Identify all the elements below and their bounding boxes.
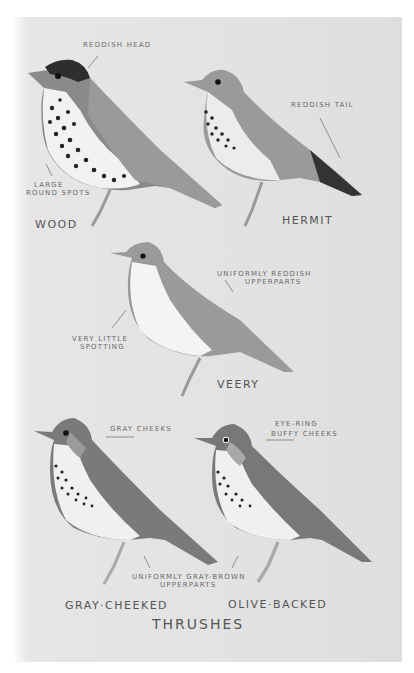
label-round-spots: round spots bbox=[26, 189, 90, 197]
species-name-olive-backed: Olive·Backed bbox=[228, 598, 327, 611]
species-name-hermit: Hermit bbox=[282, 214, 333, 227]
veery-upper-pointer bbox=[225, 280, 233, 292]
olive-backed-figure bbox=[194, 424, 372, 582]
species-name-veery: Veery bbox=[217, 378, 260, 391]
wood-spots-pointer bbox=[46, 164, 52, 176]
label-reddish-tail: Reddish tail bbox=[291, 101, 354, 109]
gray-cheeked-figure bbox=[34, 418, 218, 584]
shared-pointer-right bbox=[232, 556, 238, 568]
species-name-wood: Wood bbox=[35, 218, 78, 231]
label-upperparts-veery: upperparts bbox=[245, 278, 302, 286]
wood-head-pointer bbox=[88, 56, 98, 68]
shared-pointer-left bbox=[144, 556, 150, 568]
label-uniformly-reddish: Uniformly reddish bbox=[217, 270, 312, 278]
veery-figure bbox=[110, 242, 294, 396]
label-uniformly-gray-brown: Uniformly gray-brown bbox=[132, 573, 246, 581]
hermit-tail-pointer bbox=[320, 118, 340, 158]
label-buffy-cheeks: Buffy cheeks bbox=[271, 430, 338, 438]
label-large: Large bbox=[34, 181, 64, 189]
label-gray-cheeks: Gray cheeks bbox=[110, 425, 172, 433]
label-very-little: Very little bbox=[72, 335, 128, 343]
species-name-gray-cheeked: Gray·Cheeked bbox=[65, 599, 168, 612]
label-upperparts-shared: upperparts bbox=[160, 581, 217, 589]
veery-spot-pointer bbox=[112, 310, 126, 328]
label-reddish-head: Reddish head bbox=[83, 41, 151, 49]
plate-title: Thrushes bbox=[152, 616, 244, 632]
label-eye-ring: Eye-ring bbox=[275, 420, 318, 428]
label-spotting: spotting bbox=[80, 343, 125, 351]
